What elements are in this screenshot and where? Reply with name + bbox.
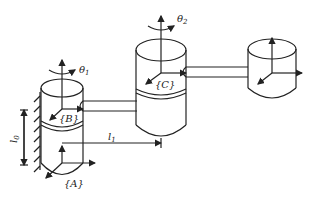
frame-a-label: {A} <box>64 178 84 189</box>
theta2-label: θ2 <box>177 13 188 26</box>
l0-dimension <box>20 110 28 165</box>
l1-label: l1 <box>108 131 116 144</box>
frame-c-label: {C} <box>155 79 175 90</box>
link-2 <box>183 67 248 77</box>
theta1-label: θ1 <box>79 64 90 77</box>
robot-arm-diagram: θ1 θ2 {B} {C} {A} l1 l0 <box>0 0 309 205</box>
link-1 <box>80 101 137 111</box>
l0-label: l0 <box>8 135 21 143</box>
frame-b-label: {B} <box>59 113 79 124</box>
wall-hatching <box>34 92 40 172</box>
